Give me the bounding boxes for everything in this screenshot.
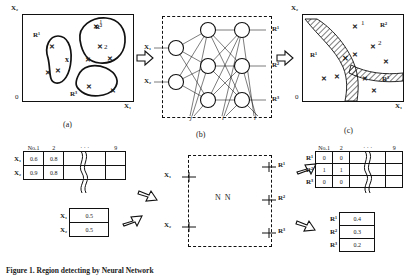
table-row: R² 1 1: [306, 164, 403, 176]
panel-c-x-axis-label: X₁: [395, 103, 402, 110]
input-cell: 0.8: [44, 166, 64, 180]
single-input-row-label-x1: X₁: [60, 209, 70, 223]
panel-b-network-graph: [162, 16, 270, 116]
input-row-label-x1: X₁: [14, 152, 24, 166]
table-row: R¹ 0 0: [306, 152, 403, 164]
panel-c-region-label-r1: R¹: [310, 52, 317, 59]
panel-a-x-axis-label: X₁: [124, 103, 131, 110]
table-row: X₂ 0.9 0.8: [14, 166, 126, 180]
single-output-row-label-r2: R²: [330, 226, 340, 239]
panel-b-layer-label-l: l: [254, 115, 256, 122]
single-input-cell: 0.5: [70, 223, 109, 237]
input-cell: 0.8: [44, 152, 64, 166]
figure-caption: Figure 1. Region detecting by Neural Net…: [6, 266, 154, 275]
input-cell-empty: [106, 152, 126, 166]
single-input-cell: 0.5: [70, 209, 109, 223]
data-point-mark: ✕: [49, 44, 55, 51]
output-cell-empty: [386, 152, 403, 164]
data-point-mark: ✕: [321, 76, 327, 83]
panel-c-y-axis-label: X₂: [291, 5, 298, 12]
panel-b-caption: (b): [196, 131, 205, 139]
arrow-b-to-c-icon: [276, 50, 294, 66]
table-row: R³ 0 0: [306, 176, 403, 188]
panel-a-origin-label: 0: [15, 94, 19, 101]
table-row: X₁ 0.5: [60, 209, 109, 223]
input-sample-table: No.1 2 · · · 9 X₁ 0.6 0.8 X₂ 0.9 0.8: [14, 145, 126, 180]
data-point-mark: ✕: [110, 88, 116, 95]
data-point-mark: ✕: [352, 52, 358, 59]
panel-c-point-index-1: 1: [361, 20, 365, 27]
input-cell-empty: [106, 166, 126, 180]
panel-a-point-index-2: 2: [104, 44, 108, 51]
panel-b-input-label-x1: X₁: [144, 44, 151, 51]
nn-block-output-label-r3: R³: [278, 228, 285, 235]
single-output-row-label-r3: R³: [330, 239, 340, 252]
single-output-cell: 0.2: [340, 239, 375, 252]
data-point-mark: ✕: [370, 44, 376, 51]
single-output-cell: 0.3: [340, 226, 375, 239]
bottom-output-table-wrap: No.1 2 · · · 9 R¹ 0 0 R² 1 1 R³ 0 0: [306, 145, 403, 188]
arrow-input-table-to-nn-icon: [138, 188, 158, 205]
arrow-nn-to-single-output-icon: [296, 218, 316, 235]
nn-block-input-label-x1: X₁: [164, 172, 171, 179]
bottom-input-table-wrap: No.1 2 · · · 9 X₁ 0.6 0.8 X₂ 0.9 0.8: [14, 145, 126, 180]
data-point-mark: ✕: [371, 88, 377, 95]
panel-c-origin-label: 0: [295, 94, 299, 101]
panel-c-point-index-2: 2: [378, 40, 382, 47]
data-point-mark: ✕: [97, 44, 103, 51]
input-table-break-squiggle-icon: [76, 151, 90, 193]
data-point-mark: ✕: [85, 57, 91, 64]
single-input-row-label-x2: X₂: [60, 223, 70, 237]
table-row: X₂ 0.5: [60, 223, 109, 237]
panel-c-region-label-r3: R³: [382, 76, 389, 83]
panel-a-point-index-1: 1: [99, 19, 103, 26]
single-output-table-wrap: R¹ 0.4 R² 0.3 R³ 0.2: [330, 212, 375, 252]
panel-a-y-axis-label: X₂: [11, 5, 18, 12]
nn-block-terminals: [180, 155, 278, 245]
nn-block-output-label-r1: R¹: [278, 162, 285, 169]
data-point-mark-stray: ✕: [342, 55, 349, 63]
panel-c-caption: (c): [344, 127, 353, 135]
input-cell: 0.6: [24, 152, 44, 166]
arrow-single-input-to-nn-icon: [122, 212, 142, 229]
table-row: X₁ 0.6 0.8: [14, 152, 126, 166]
input-row-label-x2: X₂: [14, 166, 24, 180]
single-output-table: R¹ 0.4 R² 0.3 R³ 0.2: [330, 212, 375, 252]
data-point-mark: ✕: [383, 59, 389, 66]
panel-b-output-label-r3: R³: [272, 96, 279, 103]
output-cell: 0: [333, 176, 350, 188]
output-cell: 0: [316, 176, 333, 188]
output-cell-empty: [386, 164, 403, 176]
data-point-mark: ✕: [86, 84, 92, 91]
data-point-mark: ✕: [55, 68, 61, 75]
output-cell: 1: [316, 164, 333, 176]
data-point-mark: ✕: [334, 74, 340, 81]
nn-block-output-label-r2: R²: [278, 195, 285, 202]
output-cell: 1: [333, 164, 350, 176]
data-point-mark: ✕: [93, 24, 99, 31]
data-point-mark: ✕: [352, 24, 358, 31]
output-row-label-r1: R¹: [306, 152, 316, 164]
single-output-row-label-r1: R¹: [330, 213, 340, 226]
panel-c-region-label-r2: R²: [380, 22, 387, 29]
panel-b-layer-label-j: j: [190, 115, 192, 122]
output-cell-empty: [386, 176, 403, 188]
output-row-label-r2: R²: [306, 164, 316, 176]
panel-a-label-r1: R¹: [33, 32, 40, 39]
arrow-a-to-b-icon: [136, 50, 154, 66]
output-cell: 0: [333, 152, 350, 164]
panel-b-layer-label-i: i: [222, 115, 224, 122]
panel-b-input-label-x2: X₂: [144, 78, 151, 85]
single-output-cell: 0.4: [340, 213, 375, 226]
table-row: R¹ 0.4: [330, 213, 375, 226]
input-cell: 0.9: [24, 166, 44, 180]
single-input-table-wrap: X₁ 0.5 X₂ 0.5: [60, 208, 109, 237]
output-row-label-r3: R³: [306, 176, 316, 188]
output-table-break-squiggle-icon: [360, 151, 374, 193]
panel-a-label-r3: R³: [70, 91, 77, 98]
table-row: R² 0.3: [330, 226, 375, 239]
single-input-table: X₁ 0.5 X₂ 0.5: [60, 208, 109, 237]
panel-a-caption: (a): [63, 121, 72, 129]
nn-block-input-label-x2: X₂: [164, 222, 171, 229]
data-point-mark: ✕: [45, 70, 51, 77]
